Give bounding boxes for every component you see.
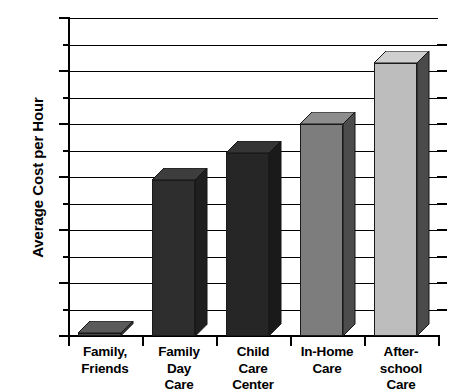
y-tick-major	[59, 176, 69, 178]
x-axis-label-line: Day	[142, 361, 216, 378]
x-axis-label-line: Care	[364, 377, 438, 392]
x-axis-label-line: Care	[290, 361, 364, 378]
bar-chart: Average Cost per Hour $6543210 Family,Fr…	[0, 0, 452, 392]
y-tick-major-right	[437, 123, 447, 125]
y-tick-minor	[63, 309, 69, 311]
x-axis-label-line: In-Home	[290, 344, 364, 361]
bar-front-face	[300, 124, 343, 336]
y-tick-major-right	[437, 70, 447, 72]
y-tick-minor	[63, 150, 69, 152]
bar-4	[300, 112, 355, 336]
bar-1	[78, 321, 133, 336]
y-tick-major	[59, 282, 69, 284]
bar-2	[152, 168, 207, 336]
y-tick-minor	[63, 44, 69, 46]
bar-side-face	[417, 51, 429, 336]
x-axis-label-line: Family	[142, 344, 216, 361]
bar-side-face	[269, 141, 281, 336]
x-axis-label-3: ChildCareCenter	[216, 344, 290, 392]
bar-top-face	[226, 141, 281, 153]
y-tick-minor	[63, 256, 69, 258]
x-axis-labels: Family,FriendsFamilyDayCareChildCareCent…	[68, 344, 440, 392]
bar-side-face	[195, 168, 207, 336]
y-tick-major-right	[437, 176, 447, 178]
y-tick-major	[59, 229, 69, 231]
y-tick-minor-right	[437, 44, 447, 46]
bar-top-face	[374, 51, 429, 63]
y-tick-minor-right	[437, 203, 447, 205]
y-tick-minor	[63, 203, 69, 205]
bar-top-face	[300, 112, 355, 124]
x-axis-label-line: Center	[216, 377, 290, 392]
x-axis-label-line: Care	[142, 377, 216, 392]
y-tick-major-right	[437, 282, 447, 284]
bar-top-face	[152, 168, 207, 180]
gridline-major	[68, 18, 438, 19]
bar-3	[226, 141, 281, 336]
bar-front-face	[374, 63, 417, 336]
x-axis-label-1: Family,Friends	[68, 344, 142, 377]
y-tick-minor-right	[437, 97, 447, 99]
x-axis-label-line: school	[364, 361, 438, 378]
gridline-minor	[68, 45, 438, 46]
x-axis-label-2: FamilyDayCare	[142, 344, 216, 392]
x-axis-label-line: After-	[364, 344, 438, 361]
y-tick-major	[59, 123, 69, 125]
x-axis-label-line: Family,	[68, 344, 142, 361]
x-axis-label-line: Care	[216, 361, 290, 378]
x-axis-label-4: In-HomeCare	[290, 344, 364, 377]
bar-front-face	[226, 153, 269, 336]
bar-5	[374, 51, 429, 336]
y-tick-minor	[63, 97, 69, 99]
y-axis-title: Average Cost per Hour	[29, 38, 46, 318]
y-tick-major	[59, 17, 69, 19]
y-tick-minor-right	[437, 150, 447, 152]
x-axis-label-line: Child	[216, 344, 290, 361]
y-tick-minor-right	[437, 256, 447, 258]
bar-top-face	[78, 321, 133, 333]
bar-side-face	[343, 112, 355, 336]
x-axis-label-5: After-schoolCare	[364, 344, 438, 392]
y-tick-major	[59, 70, 69, 72]
bar-front-face	[152, 180, 195, 336]
plot-area: $6543210	[68, 18, 438, 336]
bar-front-face	[78, 333, 121, 336]
x-axis-label-line: Friends	[68, 361, 142, 378]
y-tick-major-right	[437, 229, 447, 231]
y-tick-minor-right	[437, 309, 447, 311]
